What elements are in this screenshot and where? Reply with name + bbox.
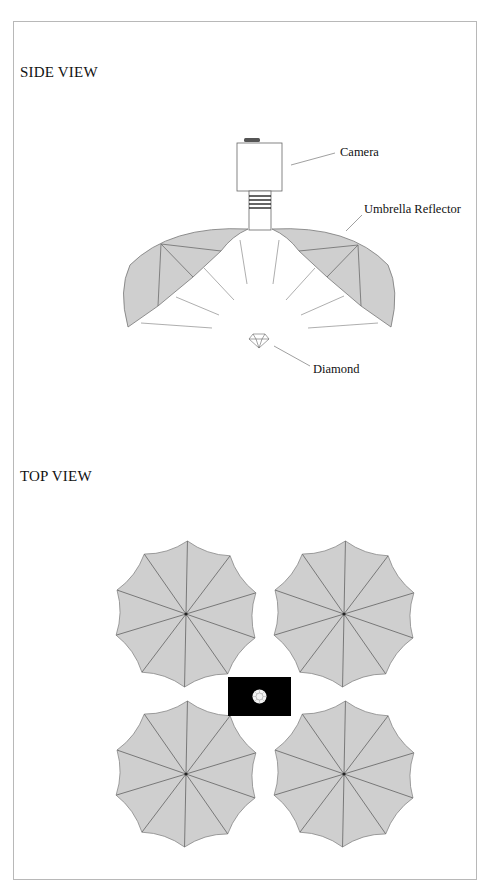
umbrella-leader-line <box>346 215 362 231</box>
diamond-leader-line <box>274 346 310 366</box>
camera-leader-line <box>291 153 335 165</box>
camera-icon <box>237 138 282 230</box>
umbrella-top-view-4-icon <box>274 701 414 847</box>
diagram-canvas <box>0 0 493 889</box>
umbrella-top-view-1-icon <box>116 541 256 687</box>
umbrella-reflector-left-icon <box>123 229 248 327</box>
diamond-icon <box>249 334 269 348</box>
umbrella-top-view-2-icon <box>274 541 414 687</box>
umbrella-top-view-3-icon <box>116 701 256 847</box>
diamond-top-view-icon <box>228 677 291 716</box>
umbrella-reflector-right-icon <box>272 229 395 327</box>
